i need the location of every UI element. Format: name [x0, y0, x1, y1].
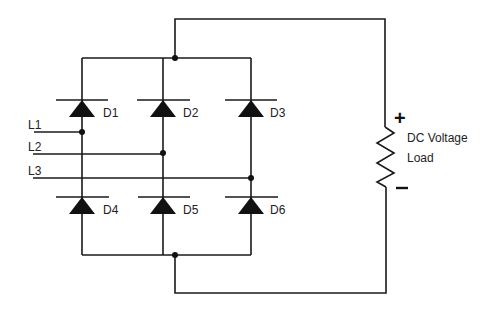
diode-triangle-icon: [69, 100, 95, 117]
diode-triangle-icon: [150, 100, 176, 117]
diode-triangle-icon: [69, 197, 95, 214]
positive-bus: [82, 19, 385, 127]
diode-label-d3: D3: [270, 106, 286, 120]
l3-junction-dot: [248, 175, 254, 181]
input-label-l1: L1: [28, 118, 42, 132]
diode-triangle-icon: [238, 100, 264, 117]
positive-junction-dot: [172, 55, 178, 61]
diode-d2: D2: [137, 100, 199, 120]
diode-label-d4: D4: [103, 203, 119, 217]
diode-triangle-icon: [150, 197, 176, 214]
diode-d1: D1: [56, 100, 119, 120]
diode-triangle-icon: [238, 197, 264, 214]
input-label-l2: L2: [28, 140, 42, 154]
resistor-icon: [377, 127, 394, 187]
load-label-line1: DC Voltage: [407, 131, 468, 145]
diode-label-d6: D6: [270, 203, 286, 217]
rectifier-circuit-diagram: L1 L2 L3 D1 D2 D3 D4: [0, 0, 483, 311]
diode-d3: D3: [225, 100, 286, 120]
negative-junction-dot: [172, 252, 178, 258]
l1-junction-dot: [79, 129, 85, 135]
diode-d4: D4: [56, 197, 119, 217]
diode-label-d1: D1: [103, 106, 119, 120]
lower-diodes: D4 D5 D6: [56, 197, 286, 217]
diode-d5: D5: [138, 197, 199, 217]
diode-label-d5: D5: [183, 203, 199, 217]
column-wires: [82, 58, 251, 255]
negative-bus: [82, 187, 386, 293]
diode-label-d2: D2: [183, 106, 199, 120]
input-lines: L1 L2 L3: [28, 118, 254, 181]
l2-junction-dot: [160, 150, 166, 156]
upper-diodes: D1 D2 D3: [56, 100, 286, 120]
input-label-l3: L3: [28, 164, 42, 178]
positive-sign: +: [394, 107, 406, 129]
diode-d6: D6: [225, 197, 286, 217]
load-label-line2: Load: [407, 151, 434, 165]
dc-load: + DC Voltage Load: [377, 107, 468, 188]
